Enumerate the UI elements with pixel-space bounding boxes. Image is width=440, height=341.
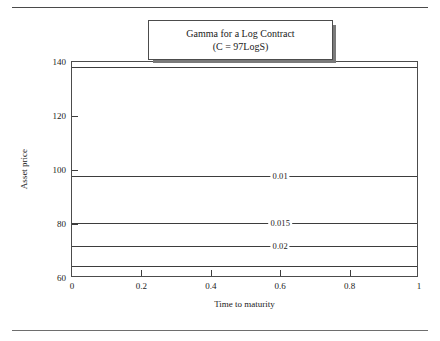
contour-line <box>72 246 417 247</box>
y-tick-mark <box>72 224 78 225</box>
x-tick-label: 0.8 <box>344 282 355 291</box>
plot-area: 0.010.0150.02 6080100120140 00.20.40.60.… <box>71 61 418 277</box>
x-tick-mark <box>211 270 212 276</box>
x-axis-title: Time to maturity <box>71 300 418 309</box>
x-tick-mark <box>350 270 351 276</box>
contour-line <box>72 266 417 267</box>
y-tick-label: 140 <box>53 58 67 67</box>
contour-label: 0.02 <box>271 242 290 251</box>
plot-inner: 0.010.0150.02 <box>72 62 417 276</box>
chart-title-line2: (C = 97LogS) <box>213 40 269 54</box>
contour-label: 0.01 <box>271 172 290 181</box>
y-tick-mark <box>72 116 78 117</box>
x-tick-mark <box>141 270 142 276</box>
contour-line <box>72 176 417 177</box>
page-rule-top <box>12 7 428 8</box>
y-tick-label: 80 <box>57 220 66 229</box>
x-tick-mark <box>280 270 281 276</box>
y-tick-label: 100 <box>53 166 67 175</box>
y-tick-label: 60 <box>57 274 66 283</box>
y-tick-label: 120 <box>53 112 67 121</box>
x-tick-label: 0.2 <box>136 282 147 291</box>
x-tick-label: 1 <box>417 282 422 291</box>
y-axis-title: Asset price <box>20 149 29 189</box>
contour-label: 0.015 <box>268 218 292 227</box>
contour-line <box>72 223 417 224</box>
y-tick-mark <box>72 170 78 171</box>
x-tick-label: 0 <box>70 282 75 291</box>
chart-title-box: Gamma for a Log Contract (C = 97LogS) <box>148 20 333 60</box>
page-rule-bottom <box>12 330 428 331</box>
x-tick-label: 0.6 <box>275 282 286 291</box>
figure-page: Gamma for a Log Contract (C = 97LogS) 0.… <box>0 0 440 341</box>
chart-title-line1: Gamma for a Log Contract <box>186 27 294 41</box>
contour-line <box>72 67 417 68</box>
x-tick-label: 0.4 <box>205 282 216 291</box>
